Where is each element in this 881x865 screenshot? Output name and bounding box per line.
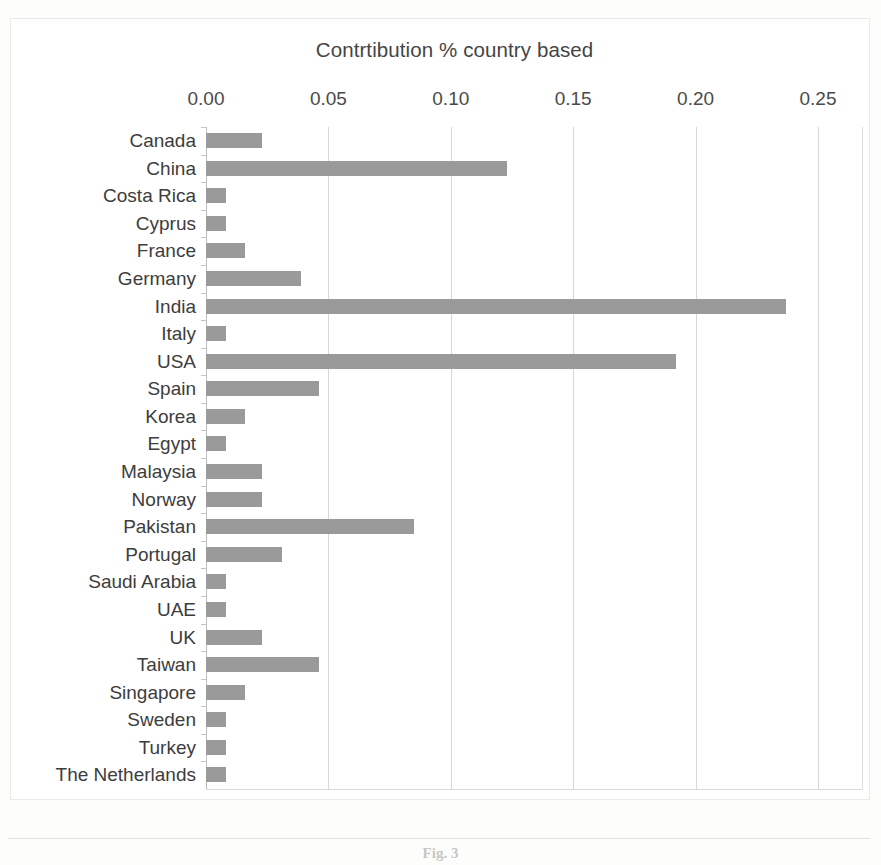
- bar-row: [206, 734, 818, 762]
- y-axis-tick: [201, 486, 206, 487]
- y-axis-tick: [201, 513, 206, 514]
- y-axis-label: Turkey: [0, 734, 196, 762]
- x-tick-label: 0.25: [800, 88, 837, 110]
- y-axis-label: UAE: [0, 596, 196, 624]
- bar-row: [206, 182, 818, 210]
- y-axis-tick: [201, 237, 206, 238]
- figure-container: Contrtibution % country based 0.000.050.…: [0, 0, 881, 865]
- bar: [206, 409, 245, 424]
- bar-row: [206, 624, 818, 652]
- bar: [206, 326, 226, 341]
- bar-row: [206, 541, 818, 569]
- y-axis-label: Costa Rica: [0, 182, 196, 210]
- bar-row: [206, 127, 818, 155]
- y-axis-label: Korea: [0, 403, 196, 431]
- bar: [206, 519, 414, 534]
- bar: [206, 161, 507, 176]
- y-axis-label: Norway: [0, 486, 196, 514]
- y-axis-label: Germany: [0, 265, 196, 293]
- bar: [206, 464, 262, 479]
- y-axis-tick: [201, 155, 206, 156]
- figure-caption: Fig. 3: [0, 845, 881, 862]
- bar-row: [206, 596, 818, 624]
- y-axis-label: USA: [0, 348, 196, 376]
- bar-row: [206, 265, 818, 293]
- bar-row: [206, 375, 818, 403]
- y-axis-tick: [201, 210, 206, 211]
- bar-row: [206, 458, 818, 486]
- y-axis-label: Sweden: [0, 706, 196, 734]
- y-axis-tick: [201, 375, 206, 376]
- bar: [206, 630, 262, 645]
- x-axis-tick-labels: 0.000.050.100.150.200.25: [0, 88, 881, 114]
- bar: [206, 354, 676, 369]
- bar: [206, 271, 301, 286]
- bar-row: [206, 568, 818, 596]
- plot-right-border: [862, 127, 863, 789]
- y-axis-label: China: [0, 155, 196, 183]
- y-axis-tick: [201, 596, 206, 597]
- x-tick-label: 0.20: [677, 88, 714, 110]
- bar-row: [206, 706, 818, 734]
- y-axis-tick: [201, 568, 206, 569]
- y-axis-label: Cyprus: [0, 210, 196, 238]
- bar-row: [206, 237, 818, 265]
- y-axis-label: India: [0, 293, 196, 321]
- x-tick-label: 0.10: [432, 88, 469, 110]
- y-axis-tick: [201, 430, 206, 431]
- bar: [206, 740, 226, 755]
- y-axis-tick: [201, 293, 206, 294]
- caption-rule: [8, 838, 870, 839]
- y-axis-tick: [201, 320, 206, 321]
- bar-row: [206, 210, 818, 238]
- y-axis-label: Spain: [0, 375, 196, 403]
- y-axis-tick: [201, 679, 206, 680]
- bar-row: [206, 651, 818, 679]
- y-axis-label: Egypt: [0, 430, 196, 458]
- y-axis-tick: [201, 182, 206, 183]
- y-axis-tick: [201, 127, 206, 128]
- y-axis-tick: [201, 624, 206, 625]
- y-axis-tick: [201, 761, 206, 762]
- y-axis-category-labels: CanadaChinaCosta RicaCyprusFranceGermany…: [0, 127, 196, 789]
- bar: [206, 602, 226, 617]
- bar: [206, 436, 226, 451]
- gridline: [818, 127, 819, 789]
- y-axis-tick: [201, 706, 206, 707]
- bar: [206, 574, 226, 589]
- x-tick-label: 0.15: [555, 88, 592, 110]
- y-axis-label: Pakistan: [0, 513, 196, 541]
- plot-bottom-border: [206, 789, 863, 790]
- bar-row: [206, 513, 818, 541]
- bar-row: [206, 320, 818, 348]
- x-tick-label: 0.05: [310, 88, 347, 110]
- y-axis-label: Taiwan: [0, 651, 196, 679]
- bar: [206, 685, 245, 700]
- bar: [206, 299, 786, 314]
- bar-row: [206, 486, 818, 514]
- bar: [206, 767, 226, 782]
- bar-row: [206, 293, 818, 321]
- bar-row: [206, 679, 818, 707]
- chart-title: Contrtibution % country based: [0, 38, 881, 62]
- y-axis-label: Italy: [0, 320, 196, 348]
- bar: [206, 492, 262, 507]
- y-axis-label: Singapore: [0, 679, 196, 707]
- bar: [206, 133, 262, 148]
- bar-row: [206, 348, 818, 376]
- y-axis-tick: [201, 265, 206, 266]
- y-axis-tick: [201, 651, 206, 652]
- y-axis-tick: [201, 458, 206, 459]
- bar: [206, 188, 226, 203]
- bar-row: [206, 155, 818, 183]
- y-axis-tick: [201, 403, 206, 404]
- y-axis-tick: [201, 348, 206, 349]
- y-axis-label: Canada: [0, 127, 196, 155]
- y-axis-label: Malaysia: [0, 458, 196, 486]
- bar-row: [206, 761, 818, 789]
- y-axis-tick: [201, 734, 206, 735]
- x-tick-label: 0.00: [188, 88, 225, 110]
- bar-row: [206, 430, 818, 458]
- bar: [206, 712, 226, 727]
- y-axis-label: France: [0, 237, 196, 265]
